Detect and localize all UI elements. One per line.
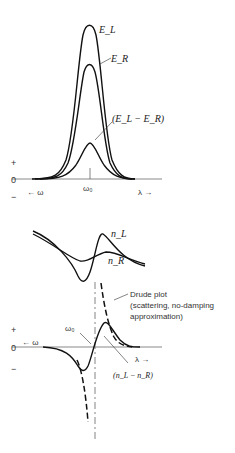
top-plus-label: + xyxy=(11,158,16,168)
curve-n-R xyxy=(33,234,145,264)
top-minus-label: − xyxy=(11,192,16,202)
diagram: E_L E_R (E_L − E_R) + 0 − ← ω ω₀ λ → n_L… xyxy=(0,0,235,453)
label-n-R: n_R xyxy=(108,255,124,266)
top-omega0-label: ω₀ xyxy=(83,184,93,193)
drude-label-line3: approximation) xyxy=(130,312,183,321)
bottom-zero-label: 0 xyxy=(11,343,16,353)
bottom-minus-label: − xyxy=(11,364,16,374)
label-n-L: n_L xyxy=(111,228,127,239)
drude-label-line2: (scattering, no-damping xyxy=(130,301,214,310)
label-E-R: E_R xyxy=(110,53,128,64)
drude-curve-upper xyxy=(101,283,132,347)
bottom-plus-label: + xyxy=(11,325,16,335)
label-E-diff: (E_L − E_R) xyxy=(112,113,165,125)
drude-label-line1: Drude plot xyxy=(130,290,168,299)
top-lambda-arrow: λ → xyxy=(138,188,152,197)
curve-n-L xyxy=(33,231,145,281)
label-n-diff: (n_L − n_R) xyxy=(113,371,153,380)
bottom-omega0-label: ω₀ xyxy=(65,324,75,333)
curve-E-L xyxy=(32,25,135,179)
bottom-panel: n_L n_R Drude plot (scattering, no-dampi… xyxy=(11,228,214,440)
top-omega-arrow: ← ω xyxy=(27,188,43,197)
label-E-L: E_L xyxy=(98,24,116,35)
bottom-lambda-arrow: λ → xyxy=(135,355,149,364)
top-panel: E_L E_R (E_L − E_R) + 0 − ← ω ω₀ λ → xyxy=(11,24,165,202)
bottom-omega-arrow: ← ω xyxy=(22,338,38,347)
top-zero-label: 0 xyxy=(11,175,16,185)
curve-n-L-minus-n-R xyxy=(43,322,140,370)
